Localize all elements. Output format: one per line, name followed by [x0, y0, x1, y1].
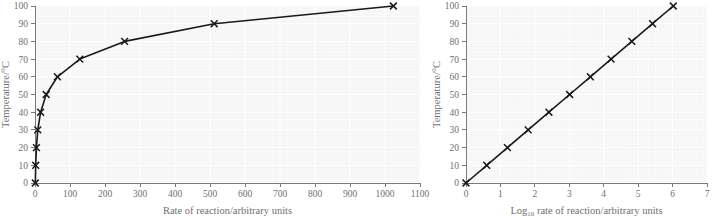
x-axis-title-suffix: rate of reaction/arbitrary units — [534, 205, 662, 216]
x-tick-label: 3 — [567, 189, 572, 199]
x-tick-group: 01234567 — [464, 183, 710, 199]
x-tick-label: 100 — [63, 189, 78, 199]
dual-chart-figure: 0100200300400500600700800900100011000102… — [0, 0, 714, 224]
x-tick-label: 500 — [203, 189, 218, 199]
x-tick-label: 200 — [98, 189, 113, 199]
y-axis-title: Temperature/°C — [0, 61, 11, 128]
x-tick-label: 1 — [498, 189, 503, 199]
y-tick-label: 60 — [19, 72, 29, 82]
y-tick-label: 50 — [19, 90, 29, 100]
x-tick-group: 010020030040050060070080090010001100 — [33, 183, 430, 199]
x-axis-title-prefix: Log — [510, 205, 528, 216]
x-tick-label: 5 — [636, 189, 641, 199]
x-tick-label: 2 — [532, 189, 537, 199]
x-tick-label: 0 — [464, 189, 469, 199]
y-tick-label: 70 — [19, 55, 29, 65]
x-tick-label: 900 — [343, 189, 358, 199]
x-tick-label: 700 — [273, 189, 288, 199]
x-tick-label: 1000 — [376, 189, 395, 199]
y-tick-label: 30 — [450, 125, 460, 135]
chart-panel-left: 0100200300400500600700800900100011000102… — [0, 0, 430, 224]
y-tick-label: 60 — [450, 72, 460, 82]
y-tick-label: 50 — [450, 90, 460, 100]
y-tick-label: 80 — [19, 37, 29, 47]
y-tick-label: 90 — [450, 19, 460, 29]
y-tick-label: 20 — [19, 143, 29, 153]
x-axis-title: Log10 rate of reaction/arbitrary units — [510, 205, 662, 218]
x-tick-label: 1100 — [411, 189, 430, 199]
right-chart-svg: 012345670102030405060708090100Temperatur… — [430, 0, 714, 224]
x-tick-label: 7 — [705, 189, 710, 199]
x-tick-label: 4 — [601, 189, 606, 199]
x-tick-label: 300 — [133, 189, 148, 199]
y-tick-label: 40 — [450, 108, 460, 118]
y-tick-group: 0102030405060708090100 — [14, 1, 35, 188]
x-tick-label: 600 — [238, 189, 253, 199]
y-tick-label: 70 — [450, 55, 460, 65]
y-tick-label: 80 — [450, 37, 460, 47]
y-tick-label: 10 — [450, 161, 460, 171]
x-axis-title: Rate of reaction/arbitrary units — [163, 205, 292, 216]
x-tick-label: 800 — [308, 189, 323, 199]
y-tick-label: 100 — [445, 1, 460, 11]
y-tick-label: 0 — [23, 178, 28, 188]
x-tick-label: 6 — [670, 189, 675, 199]
y-tick-group: 0102030405060708090100 — [445, 1, 466, 188]
y-tick-label: 100 — [14, 1, 29, 11]
y-tick-label: 20 — [450, 143, 460, 153]
y-tick-label: 0 — [454, 178, 459, 188]
x-tick-label: 0 — [33, 189, 38, 199]
y-tick-label: 10 — [19, 161, 29, 171]
y-axis-title: Temperature/°C — [431, 61, 442, 128]
chart-panel-right: 012345670102030405060708090100Temperatur… — [430, 0, 714, 224]
y-tick-label: 90 — [19, 19, 29, 29]
y-tick-label: 40 — [19, 108, 29, 118]
x-tick-label: 400 — [168, 189, 183, 199]
left-chart-svg: 0100200300400500600700800900100011000102… — [0, 0, 430, 224]
y-tick-label: 30 — [19, 125, 29, 135]
